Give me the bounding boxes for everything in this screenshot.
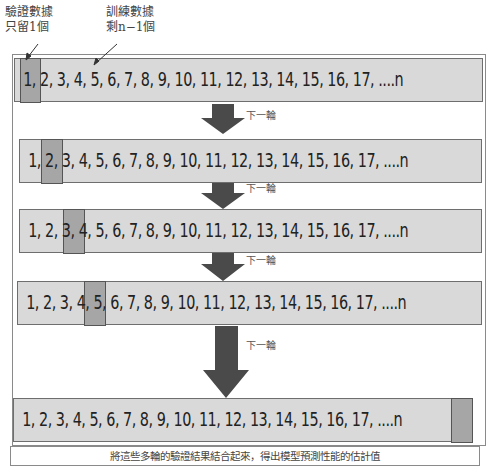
down-arrow-icon [201, 183, 245, 209]
arrows-layer [0, 0, 494, 476]
down-arrow-icon [203, 326, 249, 398]
down-arrow-icon [201, 104, 245, 134]
next-round-label: 下一輪 [246, 107, 276, 122]
summary-caption: 將這些多輪的驗證結果結合起來，得出模型預測性能的估計值 [10, 446, 480, 466]
down-arrow-icon [201, 253, 245, 281]
next-round-label: 下一輪 [246, 337, 276, 352]
next-round-label: 下一輪 [246, 252, 276, 267]
next-round-label: 下一輪 [246, 180, 276, 195]
